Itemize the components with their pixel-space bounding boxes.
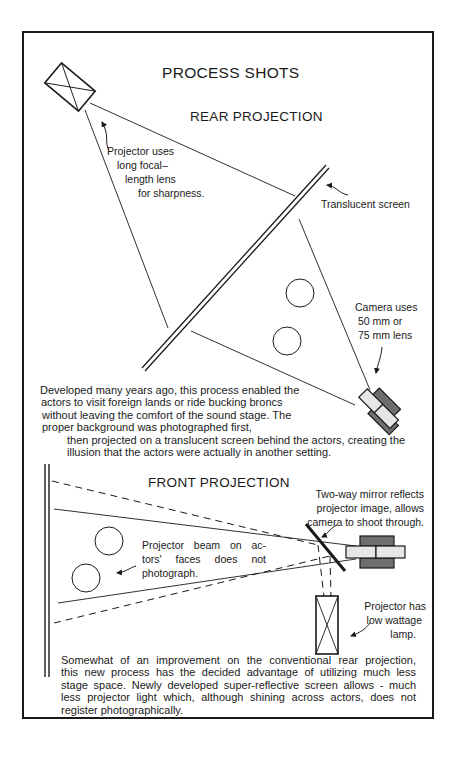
rear-description-line: without leaving the comfort of the sound…: [40, 409, 405, 421]
rear-description-line: Developed many years ago, this process e…: [40, 384, 405, 396]
camera-label: Camera uses 50 mm or 75 mm lens: [355, 300, 417, 342]
front-projector-label-line: low wattage: [352, 613, 426, 627]
rear-actor-1: [286, 279, 314, 307]
screen-pointer-arrow: [327, 185, 348, 195]
beam-label-line: tors' faces does not: [142, 552, 266, 566]
projector-beam-upper: [52, 481, 318, 545]
rear-description: Developed many years ago, this process e…: [40, 384, 405, 458]
beam-label-line: Projector beam on ac-: [142, 538, 266, 552]
projector-label-line: for sharpness.: [107, 186, 205, 200]
screen-label: Translucent screen: [321, 197, 410, 211]
front-projector-label-line: Projector has: [352, 599, 426, 613]
page-title: PROCESS SHOTS: [162, 64, 299, 82]
front-description-line: register photographically.: [61, 704, 416, 716]
camera-pointer-arrow: [376, 347, 382, 373]
front-description-line: this new process has the decided advanta…: [61, 666, 416, 678]
projector-beam-vert-left: [318, 545, 324, 597]
front-projector-label: Projector has low wattage lamp.: [352, 599, 426, 641]
projector-beam-vert-right: [330, 556, 331, 597]
front-projector-icon: [316, 596, 338, 654]
front-description: Somewhat of an improvement on the conven…: [61, 654, 416, 716]
front-projector-label-line: lamp.: [352, 627, 426, 641]
projector-label-line: length lens: [107, 172, 205, 186]
front-actor-2: [72, 564, 100, 592]
front-description-line: stage space. Newly developed super-refle…: [61, 679, 416, 691]
rear-description-line: illusion that the actors were actually i…: [40, 446, 405, 458]
camera-label-line: 75 mm lens: [355, 328, 417, 342]
rear-actor-2: [273, 327, 301, 355]
camera-label-line: Camera uses: [355, 300, 417, 314]
mirror-label-line: Two-way mirror reflects: [298, 487, 424, 501]
front-projection-heading: FRONT PROJECTION: [148, 475, 290, 490]
front-description-line: Somewhat of an improvement on the conven…: [61, 654, 416, 666]
front-description-line: less projector light which, although shi…: [61, 691, 416, 703]
rear-beam-lower: [85, 110, 168, 328]
beam-pointer-arrow: [117, 566, 136, 573]
projector-label-line: long focal–: [107, 158, 205, 172]
beam-label-line: photograph.: [142, 566, 266, 580]
camera-label-line: 50 mm or: [355, 314, 417, 328]
mirror-label-line: camera to shoot through.: [298, 515, 424, 529]
rear-projection-heading: REAR PROJECTION: [190, 109, 323, 124]
projector-label-line: Projector uses: [107, 144, 205, 158]
mirror-label-line: projector image, allows: [298, 501, 424, 515]
front-actor-1: [95, 527, 123, 555]
beam-label: Projector beam on ac- tors' faces does n…: [142, 538, 266, 580]
projector-label: Projector uses long focal– length lens f…: [107, 144, 205, 200]
rear-projector-icon: [45, 63, 95, 111]
reflective-screen: [45, 464, 49, 677]
rear-description-line: then projected on a translucent screen b…: [40, 434, 405, 446]
rear-description-line: actors to visit foreign lands or ride bu…: [40, 396, 405, 408]
front-camera-icon: [346, 536, 405, 568]
mirror-label: Two-way mirror reflects projector image,…: [298, 487, 424, 529]
rear-description-line: proper background was photographed first…: [40, 421, 405, 433]
